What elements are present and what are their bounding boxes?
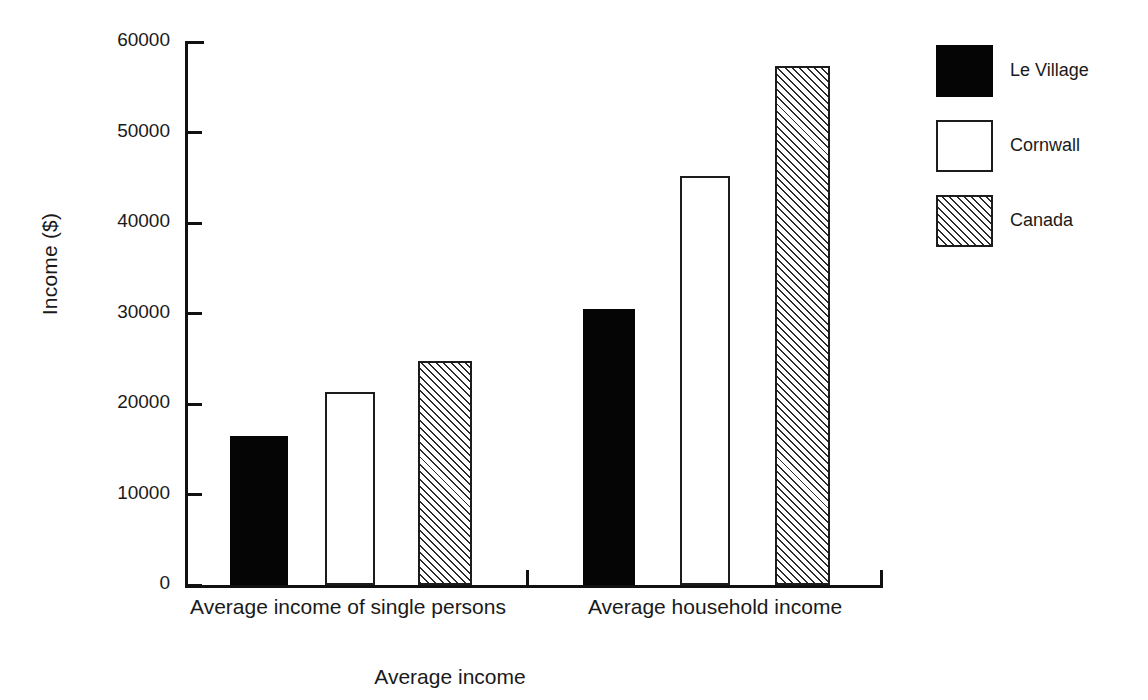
y-axis-tick [185,584,202,587]
x-axis-category-label-0: Average income of single persons [168,595,528,619]
y-axis-tick-label: 60000 [50,29,170,51]
bar-cornwall-group-0 [325,392,375,585]
bar-le-village-group-0 [230,436,288,585]
legend-item-cornwall: Cornwall [936,120,1136,172]
legend-swatch-icon [936,120,993,172]
bar-canada-group-1 [775,66,830,585]
y-axis-tick-label: 10000 [50,482,170,504]
y-axis-tick-label: 40000 [50,210,170,232]
y-axis-tick-label: 50000 [50,120,170,142]
x-axis-category-label-1: Average household income [545,595,885,619]
legend-item-canada: Canada [936,195,1136,247]
bar-cornwall-group-1 [680,176,730,585]
y-axis-tick-label: 30000 [50,301,170,323]
x-axis-title: Average income [0,665,900,689]
y-axis-tick [185,403,202,406]
bar-chart: Income ($) 01000020000300004000050000600… [0,0,1148,700]
y-axis-tick-label: 0 [50,572,170,594]
y-axis-tick [185,312,202,315]
plot-area: 0100002000030000400005000060000 [185,42,883,585]
y-axis-tick [185,131,202,134]
legend-label: Le Village [1010,60,1089,81]
x-axis-end-tick [880,570,883,588]
y-axis-tick [185,41,204,44]
legend-label: Canada [1010,210,1073,231]
legend-label: Cornwall [1010,135,1080,156]
legend-item-le-village: Le Village [936,45,1136,97]
x-axis-line [185,585,883,588]
y-axis-tick [185,222,202,225]
chart-legend: Le VillageCornwallCanada [936,45,1136,270]
y-axis-title: Income ($) [38,154,62,374]
legend-swatch-icon [936,45,993,97]
y-axis-tick [185,493,202,496]
legend-swatch-icon [936,195,993,247]
y-axis-tick-label: 20000 [50,391,170,413]
x-axis-group-separator-tick [526,570,529,588]
bar-canada-group-0 [418,361,472,585]
bar-le-village-group-1 [583,309,635,585]
